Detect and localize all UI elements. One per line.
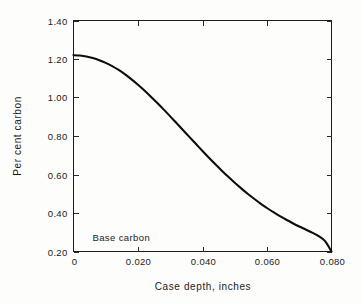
- x-tick-label: 0.060: [255, 256, 280, 267]
- y-tick-label: 1.40: [48, 16, 68, 27]
- plot-frame: [74, 21, 332, 252]
- x-axis-title: Case depth, inches: [155, 281, 251, 292]
- y-tick-label: 0.80: [48, 131, 68, 142]
- x-tick-label: 0.040: [191, 256, 216, 267]
- y-tick-label: 0.40: [48, 208, 68, 219]
- chart-canvas: 0.200.400.600.801.001.201.40 00.0200.040…: [0, 0, 362, 304]
- y-tick-label: 1.00: [48, 92, 68, 103]
- x-axis-ticks-top: [139, 21, 268, 26]
- y-tick-label: 0.60: [48, 170, 68, 181]
- x-axis-ticks: [139, 247, 268, 252]
- y-axis-title: Per cent carbon: [12, 96, 23, 176]
- x-axis-tick-labels: 00.0200.0400.0600.080: [72, 256, 345, 267]
- y-axis-ticks-right: [327, 22, 332, 253]
- x-tick-label: 0.080: [320, 256, 345, 267]
- y-tick-label: 0.20: [48, 247, 68, 258]
- y-tick-label: 1.20: [48, 54, 68, 65]
- x-tick-label: 0.020: [126, 256, 151, 267]
- carbon-gradient-curve: [74, 55, 332, 251]
- x-tick-label: 0: [72, 256, 78, 267]
- y-axis-tick-labels: 0.200.400.600.801.001.201.40: [48, 16, 68, 258]
- chart-figure: 0.200.400.600.801.001.201.40 00.0200.040…: [0, 0, 362, 304]
- base-carbon-annotation: Base carbon: [92, 232, 150, 243]
